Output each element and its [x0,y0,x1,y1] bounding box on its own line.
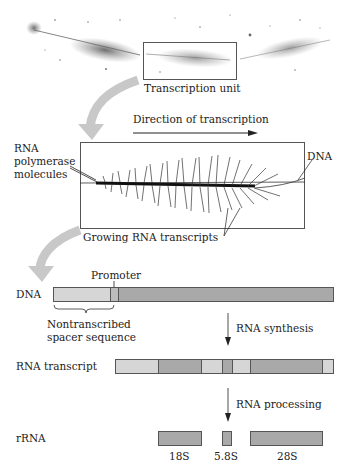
rrna-18s-label: 18S [169,450,190,462]
promoter-segment [111,288,119,301]
polymerase-label-line: molecules [14,168,75,181]
polymerase-label: RNA polymerase molecules [14,142,75,181]
rrna-5-8s-bar [222,431,232,446]
transcription-unit-label: Transcription unit [144,82,241,94]
rrna-18s-bar [158,431,202,446]
promoter-label: Promoter [91,269,141,281]
rna-transcript-bar [115,359,334,374]
transcript-28s [251,360,323,373]
dna-bar [53,287,334,302]
transcript-spacer-3 [323,360,333,373]
rrna-row-label: rRNA [16,432,46,444]
direction-label: Direction of transcription [133,113,269,125]
growing-transcripts-label: Growing RNA transcripts [83,231,218,243]
spacer-label-line: Nontranscribed [47,318,136,331]
polymerase-label-line: polymerase [14,155,75,168]
spacer-label-line: spacer sequence [47,331,136,344]
transcript-its1 [202,360,223,373]
rrna-28s-label: 28S [277,450,298,462]
transcribed-region [119,288,333,301]
transcript-spacer-5 [116,360,159,373]
polymerase-label-line: RNA [14,142,75,155]
transcription-detail-box [80,142,305,229]
transcript-5-8s [223,360,233,373]
dna-row-label: DNA [16,288,41,300]
transcription-unit-box [143,42,237,80]
transcript-its2 [233,360,251,373]
rrna-28s-bar [250,431,323,446]
electron-micrograph [0,0,346,85]
dna-strand-label: DNA [307,150,332,162]
transcript-row-label: RNA transcript [16,360,97,372]
transcript-18s [159,360,202,373]
spacer-segment [54,288,111,301]
rna-processing-label: RNA processing [236,398,322,410]
rna-synthesis-label: RNA synthesis [236,322,313,334]
spacer-label: Nontranscribed spacer sequence [47,318,136,344]
rrna-5-8s-label: 5.8S [214,450,238,462]
